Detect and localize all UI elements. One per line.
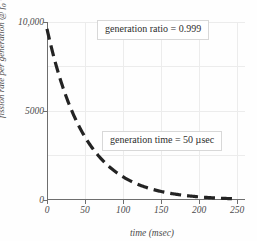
- y-axis-line: [47, 22, 48, 200]
- x-tick-label-200: 200: [192, 205, 206, 215]
- x-axis-tick: [85, 200, 86, 204]
- x-axis-title: time (msec): [47, 228, 257, 238]
- gridline-horizontal: [47, 66, 245, 67]
- gridline-horizontal: [47, 111, 245, 112]
- x-axis-tick: [237, 200, 238, 204]
- x-axis-tick: [199, 200, 200, 204]
- gridline-horizontal: [47, 155, 245, 156]
- x-tick-label-0: 0: [45, 205, 50, 215]
- y-axis-tick: [43, 111, 47, 112]
- plot-area: [47, 22, 245, 200]
- y-tick-label-5000: 5000: [2, 106, 44, 116]
- x-tick-label-150: 150: [154, 205, 168, 215]
- chart-figure: fission rate per generation @ f0 = 10,00…: [0, 0, 257, 241]
- y-tick-label-0: 0: [2, 195, 44, 205]
- x-axis-line: [47, 199, 245, 200]
- y-axis-title-subscript: 0: [0, 3, 8, 7]
- x-axis-tick: [123, 200, 124, 204]
- x-tick-label-250: 250: [230, 205, 244, 215]
- y-axis-title-tail: = 10,000: [0, 0, 6, 3]
- y-axis-tick: [43, 22, 47, 23]
- y-tick-label-10000: 10,000: [2, 17, 44, 27]
- x-axis-tick: [161, 200, 162, 204]
- x-tick-label-100: 100: [116, 205, 130, 215]
- x-axis-tick: [47, 200, 48, 204]
- annotation-generation-time: generation time = 50 µsec: [102, 131, 222, 151]
- x-tick-label-50: 50: [80, 205, 90, 215]
- annotation-generation-ratio: generation ratio = 0.999: [97, 20, 209, 40]
- fission-rate-curve: [47, 29, 237, 199]
- y-axis-tick: [43, 200, 47, 201]
